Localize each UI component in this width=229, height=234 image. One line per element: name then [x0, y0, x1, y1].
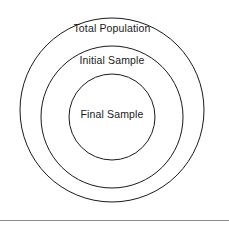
venn-diagram-figure: Total Population Initial Sample Final Sa…	[0, 0, 229, 234]
label-total-population: Total Population	[73, 22, 150, 34]
label-final-sample: Final Sample	[80, 108, 143, 120]
horizontal-rule	[0, 220, 229, 221]
label-initial-sample: Initial Sample	[79, 54, 144, 66]
